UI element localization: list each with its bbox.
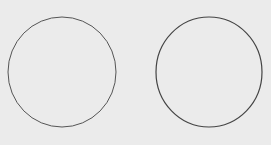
paper-canvas bbox=[0, 0, 271, 145]
drawing bbox=[0, 0, 271, 145]
right-circle bbox=[156, 17, 262, 127]
left-circle bbox=[8, 17, 116, 127]
